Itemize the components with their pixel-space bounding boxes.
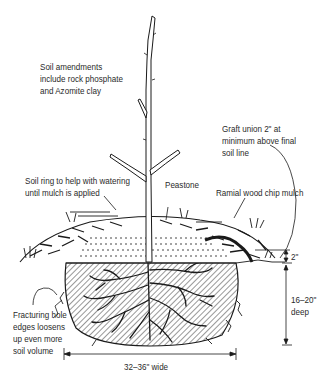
ramial-mulch-label: Ramial wood chip mulch [216,187,303,199]
peastone-label: Peastone [165,179,199,191]
graft-union-line-1: Graft union 2" at [222,123,296,135]
mound-height-label: 2" [291,251,298,263]
fracturing-line-2: edges loosens [13,321,67,333]
width-label: 32–36" wide [124,361,168,373]
fracturing-line-3: up even more [13,333,67,345]
graft-union-label: Graft union 2" at minimum above final so… [222,123,296,159]
fracturing-label: Fracturing hole edges loosens up even mo… [13,309,67,357]
amendments-line-3: and Azomite clay [40,85,123,97]
planting-diagram: Soil amendments include rock phosphate a… [0,0,327,379]
planting-hole [65,263,238,346]
amendments-label: Soil amendments include rock phosphate a… [40,61,123,97]
depth-label: 16–20" deep [291,294,316,318]
fracturing-line-4: soil volume [13,345,67,357]
soil-ring-label: Soil ring to help with watering until mu… [25,175,130,199]
amendments-line-1: Soil amendments [40,61,123,73]
width-dimension [64,348,236,360]
soil-ring-line-1: Soil ring to help with watering [25,175,130,187]
depth-line-2: deep [291,306,316,318]
soil-ring-line-2: until mulch is applied [25,187,130,199]
depth-line-1: 16–20" [291,294,316,306]
graft-union-line-3: soil line [222,147,296,159]
amendments-line-2: include rock phosphate [40,73,123,85]
fracturing-line-1: Fracturing hole [13,309,67,321]
graft-union-line-2: minimum above final [222,135,296,147]
